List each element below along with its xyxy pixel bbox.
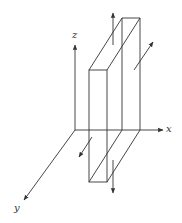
slab-bottom-mid-depth [89, 130, 122, 182]
slab-top-left-depth [89, 18, 122, 70]
right-arrow [134, 42, 153, 70]
slab-front-face [89, 70, 107, 182]
y-axis [24, 130, 75, 200]
slab-diagram [0, 0, 182, 223]
slab-bottom-right-depth [107, 130, 140, 182]
x-axis-label: x [166, 124, 172, 134]
diagram-canvas: z x y [0, 0, 182, 223]
z-axis-label: z [72, 30, 77, 40]
y-axis-label: y [14, 203, 20, 213]
left-arrow [79, 137, 92, 157]
slab-top-right-depth [107, 18, 140, 70]
